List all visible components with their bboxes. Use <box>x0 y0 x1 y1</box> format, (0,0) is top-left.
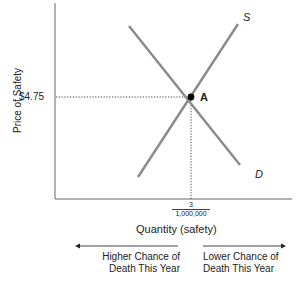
lower-chance-line1: Lower Chance of <box>203 251 293 263</box>
x-tick-denominator: 1,000,000 <box>175 210 206 217</box>
higher-chance-line1: Higher Chance of <box>96 251 180 263</box>
higher-chance-line2: Death This Year <box>96 263 180 275</box>
chart-canvas <box>0 0 297 287</box>
supply-curve <box>138 24 238 177</box>
left-arrowhead-icon <box>75 244 80 249</box>
demand-label: D <box>255 168 263 180</box>
higher-chance-caption: Higher Chance of Death This Year <box>96 251 180 275</box>
y-tick-price: $4.75 <box>19 91 44 102</box>
supply-label: S <box>243 11 250 23</box>
x-axis-label: Quantity (safety) <box>136 223 217 235</box>
equilibrium-point <box>188 94 195 101</box>
right-arrowhead-icon <box>281 244 286 249</box>
point-label-a: A <box>200 91 208 103</box>
x-tick-quantity: 3 1,000,000 <box>172 201 210 218</box>
lower-chance-line2: Death This Year <box>203 263 293 275</box>
x-tick-numerator: 3 <box>172 201 210 210</box>
lower-chance-caption: Lower Chance of Death This Year <box>203 251 293 275</box>
